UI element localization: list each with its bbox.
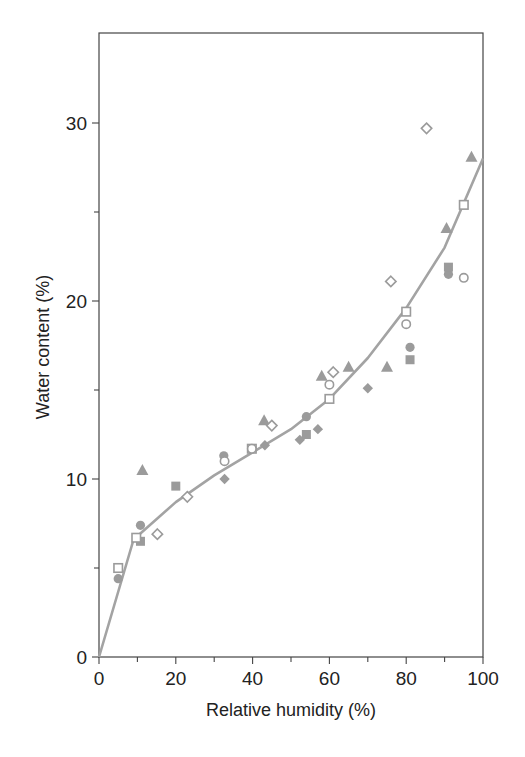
filled-diamond-marker bbox=[363, 383, 373, 393]
y-tick-label: 0 bbox=[76, 647, 87, 668]
filled-triangle-marker bbox=[381, 361, 393, 372]
y-axis-title: Water content (%) bbox=[33, 275, 53, 419]
filled-circle-marker bbox=[114, 574, 123, 583]
open-diamond-marker bbox=[328, 367, 338, 377]
open-diamond-marker bbox=[182, 492, 192, 502]
open-diamond-marker bbox=[421, 123, 431, 133]
open-circle-marker bbox=[248, 445, 256, 453]
axis-ticks bbox=[92, 123, 483, 664]
x-tick-label: 20 bbox=[165, 668, 186, 689]
filled-triangle-marker bbox=[343, 361, 355, 372]
x-tick-label: 0 bbox=[94, 668, 105, 689]
open-circle-marker bbox=[325, 380, 333, 388]
axis-tick-labels: 0204060801000102030 bbox=[66, 113, 499, 689]
filled-diamond-marker bbox=[219, 474, 229, 484]
open-square-marker bbox=[402, 307, 411, 316]
filled-triangle-marker bbox=[136, 464, 148, 475]
x-tick-label: 80 bbox=[396, 668, 417, 689]
filled-square-marker bbox=[302, 430, 311, 439]
open-circle-marker bbox=[460, 274, 468, 282]
open-circle-marker bbox=[220, 457, 228, 465]
x-tick-label: 100 bbox=[467, 668, 499, 689]
x-tick-label: 40 bbox=[242, 668, 263, 689]
filled-circle-marker bbox=[405, 343, 414, 352]
filled-circle-marker bbox=[302, 412, 311, 421]
filled-square-marker bbox=[444, 263, 453, 272]
open-circle-marker bbox=[402, 320, 410, 328]
open-diamond-marker bbox=[386, 276, 396, 286]
filled-circle-marker bbox=[136, 521, 145, 530]
x-axis-title: Relative humidity (%) bbox=[206, 700, 376, 720]
fit-curve bbox=[99, 159, 483, 657]
y-tick-label: 10 bbox=[66, 469, 87, 490]
open-square-marker bbox=[460, 201, 469, 210]
data-markers bbox=[114, 123, 478, 583]
filled-diamond-marker bbox=[313, 424, 323, 434]
open-square-marker bbox=[132, 533, 141, 542]
scatter-chart: 0204060801000102030 Relative humidity (%… bbox=[0, 0, 525, 757]
y-tick-label: 20 bbox=[66, 291, 87, 312]
x-tick-label: 60 bbox=[319, 668, 340, 689]
open-square-marker bbox=[325, 395, 334, 404]
filled-triangle-marker bbox=[465, 151, 477, 162]
open-square-marker bbox=[114, 564, 123, 573]
y-tick-label: 30 bbox=[66, 113, 87, 134]
open-diamond-marker bbox=[152, 529, 162, 539]
filled-triangle-marker bbox=[441, 222, 453, 233]
filled-square-marker bbox=[406, 355, 415, 364]
filled-square-marker bbox=[171, 482, 180, 491]
filled-triangle-marker bbox=[316, 370, 328, 381]
